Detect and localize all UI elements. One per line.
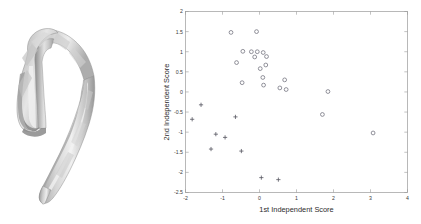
- scatter-plot-panel: -2-101234 -2.5-2-1.5-1-0.500.511.52 1st …: [160, 0, 421, 224]
- plot-frame: [186, 12, 408, 193]
- x-axis-tick-labels: -2-101234: [183, 195, 409, 201]
- data-point-circle: [258, 67, 262, 71]
- data-point-plus: [190, 117, 194, 121]
- y-tick-label: -0.5: [174, 109, 183, 115]
- x-tick-label: 1: [295, 195, 298, 201]
- data-point-plus: [223, 135, 227, 139]
- x-tick-label: 3: [369, 195, 372, 201]
- y-tick-label: 0: [180, 89, 183, 95]
- x-tick-label: -2: [183, 195, 188, 201]
- data-point-plus: [276, 178, 280, 182]
- data-point-circle: [261, 51, 265, 55]
- data-point-circle: [240, 81, 244, 85]
- figure-container: -2-101234 -2.5-2-1.5-1-0.500.511.52 1st …: [0, 0, 421, 224]
- y-axis-tick-labels: -2.5-2-1.5-1-0.500.511.52: [174, 8, 183, 195]
- y-tick-label: -1: [178, 129, 183, 135]
- data-point-circle: [249, 50, 253, 54]
- scatter-plot: -2-101234 -2.5-2-1.5-1-0.500.511.52 1st …: [160, 0, 421, 224]
- bone-surface: [17, 29, 95, 205]
- y-tick-label: 1: [180, 49, 183, 55]
- data-point-plus: [199, 103, 203, 107]
- y-tick-label: -2.5: [174, 189, 183, 195]
- data-point-circle: [278, 86, 282, 90]
- data-point-circle: [241, 49, 245, 53]
- 3d-bone-model: [0, 0, 160, 224]
- data-point-circle: [371, 131, 375, 135]
- data-point-circle: [326, 90, 330, 94]
- data-point-plus: [233, 115, 237, 119]
- data-point-plus: [259, 176, 263, 180]
- bone-render-panel: [0, 0, 160, 224]
- y-axis-title: 2nd Independent Score: [162, 64, 171, 141]
- data-point-circle: [261, 76, 265, 80]
- series-plus: [190, 103, 280, 182]
- series-circle: [229, 30, 375, 135]
- data-point-circle: [229, 31, 233, 35]
- x-tick-label: 0: [258, 195, 261, 201]
- x-tick-label: -1: [220, 195, 225, 201]
- y-tick-label: 1.5: [176, 29, 183, 35]
- data-point-circle: [235, 61, 239, 65]
- data-point-circle: [284, 88, 288, 92]
- y-tick-label: 2: [180, 8, 183, 14]
- data-point-circle: [255, 30, 259, 34]
- x-axis-ticks: [186, 12, 408, 193]
- data-point-circle: [262, 83, 266, 87]
- data-point-circle: [264, 63, 268, 67]
- data-point-plus: [239, 149, 243, 153]
- x-axis-title: 1st Independent Score: [259, 205, 333, 214]
- data-point-plus: [214, 132, 218, 136]
- y-axis-ticks: [186, 12, 408, 193]
- data-point-circle: [321, 113, 325, 117]
- x-tick-label: 2: [332, 195, 335, 201]
- y-tick-label: -2: [178, 169, 183, 175]
- data-point-circle: [253, 55, 257, 59]
- data-points-layer: [190, 30, 375, 182]
- data-point-circle: [283, 78, 287, 82]
- data-point-circle: [255, 50, 259, 54]
- x-tick-label: 4: [406, 195, 409, 201]
- data-point-circle: [265, 55, 269, 59]
- y-tick-label: 0.5: [176, 69, 183, 75]
- data-point-plus: [209, 147, 213, 151]
- y-tick-label: -1.5: [174, 149, 183, 155]
